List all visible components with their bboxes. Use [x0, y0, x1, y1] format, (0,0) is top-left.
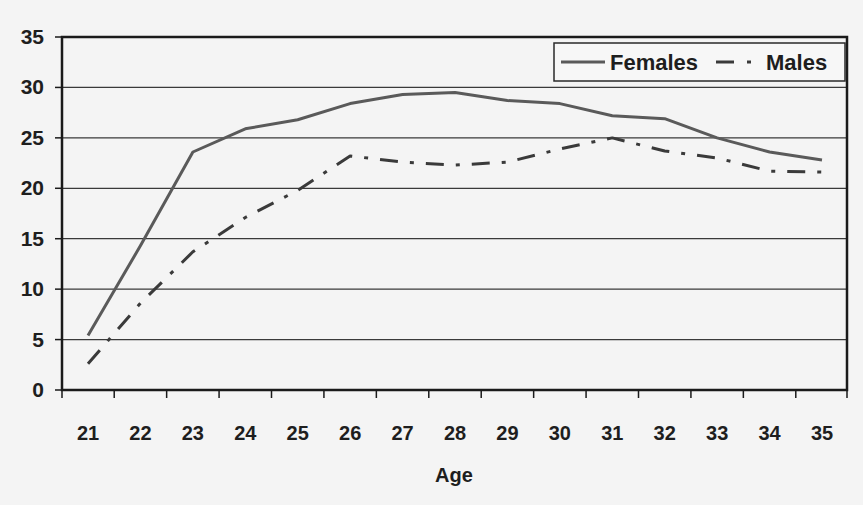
- x-tick-label: 30: [549, 422, 571, 444]
- plot-frame: [62, 37, 847, 390]
- y-tick-label: 10: [21, 277, 44, 300]
- legend-label-females: Females: [610, 50, 698, 75]
- y-tick-label: 15: [21, 227, 45, 250]
- x-tick-label: 29: [496, 422, 518, 444]
- x-tick-label: 24: [234, 422, 257, 444]
- x-tick-label: 28: [444, 422, 466, 444]
- y-tick-label: 0: [32, 378, 44, 401]
- x-tick-label: 35: [811, 422, 833, 444]
- gridlines: [62, 87, 847, 339]
- x-tick-label: 34: [758, 422, 781, 444]
- series-females-line: [88, 93, 822, 336]
- x-tick-label: 33: [706, 422, 728, 444]
- chart-canvas: 05101520253035 2122232425262728293031323…: [0, 0, 863, 505]
- x-tick-label: 22: [129, 422, 151, 444]
- legend-label-males: Males: [766, 50, 827, 75]
- x-tick-label: 25: [287, 422, 309, 444]
- series-males-line: [88, 138, 822, 364]
- y-tick-label: 20: [21, 176, 44, 199]
- x-tick-label: 32: [654, 422, 676, 444]
- x-tick-label: 27: [391, 422, 413, 444]
- y-tick-label: 25: [21, 126, 45, 149]
- legend: Females Males: [554, 43, 845, 81]
- x-tick-label: 26: [339, 422, 361, 444]
- x-tick-label: 23: [182, 422, 204, 444]
- x-tick-label: 31: [601, 422, 623, 444]
- x-axis-title: Age: [435, 464, 473, 486]
- y-tick-label: 5: [32, 328, 44, 351]
- line-chart: 05101520253035 2122232425262728293031323…: [0, 0, 863, 505]
- x-axis: 212223242526272829303132333435: [62, 390, 847, 444]
- x-tick-label: 21: [77, 422, 99, 444]
- y-axis: 05101520253035: [21, 25, 62, 401]
- series-lines: [88, 93, 822, 364]
- y-tick-label: 35: [21, 25, 45, 48]
- y-tick-label: 30: [21, 75, 44, 98]
